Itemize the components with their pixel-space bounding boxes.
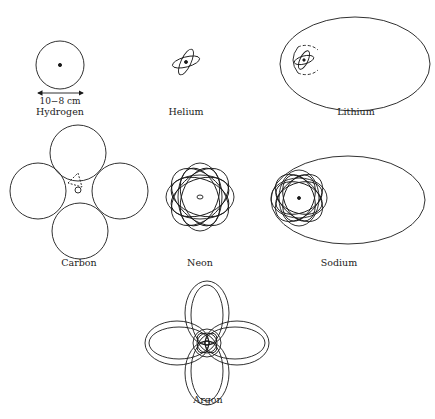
carbon-label: Carbon — [61, 257, 96, 268]
neon-label: Neon — [187, 257, 213, 268]
lithium-atom — [280, 17, 430, 111]
argon-label: Argon — [193, 394, 222, 405]
argon-atom — [145, 281, 269, 405]
helium-atom — [171, 47, 201, 77]
lithium-label: Lithium — [337, 106, 374, 117]
hydrogen-label: Hydrogen — [36, 106, 84, 117]
hydrogen-scale-label: 10−8 cm — [39, 96, 80, 106]
sodium-label: Sodium — [321, 257, 357, 268]
sodium-atom — [266, 156, 425, 244]
helium-label: Helium — [168, 106, 203, 117]
neon-atom — [160, 157, 239, 236]
atom-orbit-diagram — [0, 0, 435, 419]
carbon-atom — [10, 125, 148, 259]
hydrogen-atom — [36, 41, 84, 93]
